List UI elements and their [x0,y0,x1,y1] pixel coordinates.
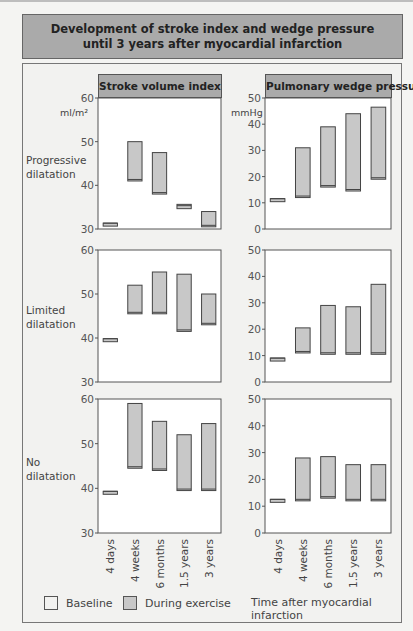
range-bar [202,212,216,227]
range-bar [202,424,216,491]
y-tick-label: 30 [248,297,261,309]
range-bar [128,403,142,468]
exercise-swatch-icon [123,596,137,610]
y-tick-label: 20 [248,323,261,335]
y-tick-label: 50 [81,288,94,300]
y-tick-label: 60 [81,244,94,256]
x-axis-title: Time after myocardial infarction [251,596,413,622]
y-tick-label: 40 [81,332,94,344]
range-bar [346,307,361,355]
y-tick-label: 0 [254,527,261,539]
y-tick-label: 10 [248,500,261,512]
y-tick-label: 50 [248,244,261,256]
y-tick-label: 30 [81,527,94,539]
y-tick-label: 30 [248,144,261,156]
y-tick-label: 0 [254,223,261,235]
range-bar [321,457,336,499]
baseline-swatch-icon [44,596,58,610]
y-tick-label: 50 [248,393,261,405]
x-tick-label: 4 days [272,539,284,574]
range-bar [177,274,191,331]
y-tick-label: 30 [248,447,261,459]
x-tick-label: 1.5 years [178,539,190,588]
range-bar [128,285,142,314]
range-bar [152,272,166,314]
y-tick-label: 30 [81,376,94,388]
range-bar [371,284,386,354]
y-tick-label: 20 [248,171,261,183]
range-bar [177,435,191,491]
range-bar [295,458,310,501]
x-tick-label: 4 weeks [129,539,141,582]
range-bar [152,153,166,194]
legend-exercise: During exercise [123,596,231,610]
legend-baseline: Baseline [44,596,113,610]
x-tick-label: 1.5 years [347,539,359,588]
y-tick-label: 0 [254,376,261,388]
y-tick-label: 20 [248,473,261,485]
x-tick-label: 3 years [203,539,215,578]
range-bar [321,127,336,187]
x-tick-label: 4 weeks [297,539,309,582]
range-bar [371,107,386,179]
range-bar [371,465,386,501]
range-bar [321,305,336,354]
y-tick-label: 10 [248,350,261,362]
y-tick-label: 60 [81,92,94,104]
y-tick-label: 30 [81,223,94,235]
y-tick-label: 50 [81,136,94,148]
y-tick-label: 40 [248,270,261,282]
charts-canvas: 3040506001020304050304050600102030405030… [0,0,413,631]
y-tick-label: 40 [81,482,94,494]
range-bar [346,114,361,191]
x-tick-label: 6 months [322,539,334,589]
y-tick-label: 40 [248,118,261,130]
range-bar [202,294,216,325]
y-tick-label: 60 [81,393,94,405]
x-tick-label: 4 days [104,539,116,574]
y-tick-label: 50 [81,438,94,450]
range-bar [177,204,191,208]
x-tick-label: 3 years [372,539,384,578]
y-tick-label: 40 [248,420,261,432]
x-tick-label: 6 months [154,539,166,589]
range-bar [128,142,142,181]
y-tick-label: 10 [248,197,261,209]
range-bar [152,421,166,470]
range-bar [346,465,361,501]
y-tick-label: 40 [81,179,94,191]
range-bar [295,148,310,198]
y-tick-label: 50 [248,92,261,104]
range-bar [295,328,310,353]
